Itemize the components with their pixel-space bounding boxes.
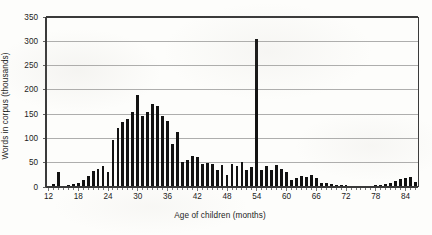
bar <box>325 183 328 187</box>
bar <box>414 182 417 187</box>
bar <box>245 170 248 187</box>
bar <box>265 166 268 187</box>
bar <box>191 156 194 187</box>
bar <box>275 165 278 187</box>
plot-frame <box>46 17 418 187</box>
bar <box>221 165 224 187</box>
bar <box>92 171 95 187</box>
bar <box>87 176 90 187</box>
chart-figure: Words in corpus (thousands) Age of child… <box>0 0 432 235</box>
bar <box>226 175 229 187</box>
bar <box>57 172 60 187</box>
bar <box>181 162 184 187</box>
bar <box>121 122 124 187</box>
bar <box>211 164 214 187</box>
bar-series <box>47 39 417 187</box>
bar <box>260 170 263 187</box>
bar <box>394 181 397 187</box>
bar <box>231 164 234 187</box>
bar <box>409 177 412 187</box>
bar <box>285 172 288 187</box>
bar <box>166 121 169 187</box>
bar <box>82 180 85 187</box>
gridlines <box>46 17 418 163</box>
bar <box>176 132 179 187</box>
bar <box>300 176 303 187</box>
bar <box>97 169 100 187</box>
bar <box>250 167 253 187</box>
bar <box>310 175 313 187</box>
bar <box>196 157 199 187</box>
bar <box>255 39 258 187</box>
bar <box>295 178 298 187</box>
bar <box>112 140 115 187</box>
bar <box>146 112 149 187</box>
bar <box>161 116 164 187</box>
bar <box>131 112 134 187</box>
bar <box>305 177 308 187</box>
bar <box>171 144 174 187</box>
bar <box>206 163 209 187</box>
bar <box>126 119 129 187</box>
bar <box>136 95 139 187</box>
bar <box>117 128 120 187</box>
bar <box>141 116 144 187</box>
plot-canvas <box>0 0 432 235</box>
bar <box>280 169 283 187</box>
bar <box>102 166 105 187</box>
axis-tick-marks <box>43 17 416 191</box>
bar <box>315 178 318 187</box>
bar <box>201 164 204 187</box>
bar <box>186 160 189 187</box>
bar <box>404 178 407 187</box>
bar <box>216 170 219 187</box>
bar <box>151 104 154 187</box>
bar <box>399 179 402 187</box>
bar <box>241 162 244 187</box>
bar <box>156 106 159 187</box>
bar <box>107 172 110 187</box>
bar <box>270 170 273 187</box>
bar <box>290 180 293 187</box>
bar <box>236 166 239 187</box>
